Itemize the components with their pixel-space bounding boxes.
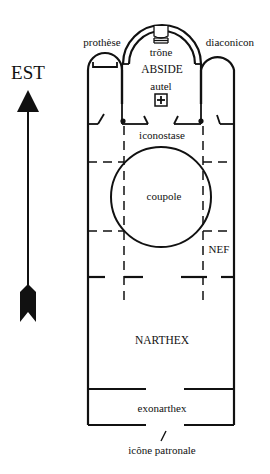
icon-pointer bbox=[161, 431, 166, 441]
prothese-niche bbox=[93, 62, 117, 67]
throne-icon bbox=[154, 26, 168, 43]
pillar-left bbox=[120, 118, 125, 123]
label-exonarthex: exonarthex bbox=[138, 402, 187, 414]
label-coupole: coupole bbox=[147, 190, 182, 202]
diaconicon-wall bbox=[201, 57, 234, 118]
label-iconostase: iconostase bbox=[139, 129, 185, 141]
church-plan-diagram: EST prothèse diaconicon trône ABSIDE aut… bbox=[0, 0, 270, 474]
label-diaconicon: diaconicon bbox=[206, 36, 255, 48]
label-nef: NEF bbox=[209, 243, 230, 255]
label-trone: trône bbox=[150, 46, 173, 58]
label-narthex: NARTHEX bbox=[135, 334, 190, 346]
vault-outline bbox=[88, 126, 234, 300]
compass-label: EST bbox=[11, 62, 45, 83]
east-arrow-icon bbox=[17, 90, 39, 322]
label-prothese: prothèse bbox=[83, 36, 120, 48]
label-icone-patronale: icône patronale bbox=[128, 444, 196, 456]
iconostase-screen bbox=[88, 104, 234, 124]
label-abside: ABSIDE bbox=[141, 63, 183, 75]
label-autel: autel bbox=[150, 80, 171, 92]
pillar-right bbox=[198, 118, 203, 123]
